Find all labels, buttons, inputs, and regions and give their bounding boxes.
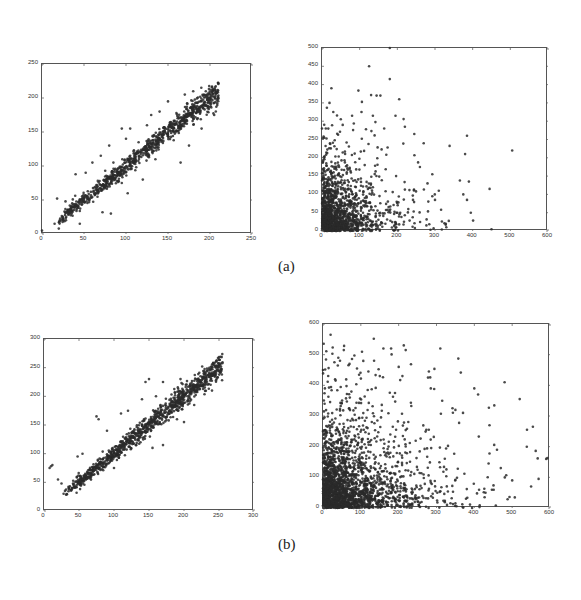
y-tick-label: 100 [23,161,38,167]
x-tick-label: 50 [72,512,84,518]
y-tick-label: 0 [304,503,319,509]
y-tick-label: 250 [23,59,38,65]
y-tick-label: 50 [23,195,38,201]
y-tick-label: 500 [303,43,318,49]
y-tick-label: 200 [25,391,40,397]
y-tick-label: 200 [303,153,318,159]
y-tick-label: 200 [304,442,319,448]
y-tick-label: 0 [303,226,318,232]
y-tick-label: 0 [25,506,40,512]
y-tick-label: 150 [303,171,318,177]
scatter-plot-a-right [321,47,547,230]
caption-b: (b) [278,536,296,553]
caption-a: (a) [278,258,295,275]
y-tick-label: 0 [23,229,38,235]
y-tick-label: 350 [303,98,318,104]
y-tick-label: 400 [303,80,318,86]
scatter-points [322,48,548,231]
x-tick-label: 0 [37,512,49,518]
x-tick-label: 600 [543,509,555,515]
scatter-points [42,64,252,234]
x-tick-label: 200 [390,232,402,238]
y-tick-label: 100 [303,189,318,195]
y-tick-label: 600 [304,319,319,325]
x-tick-label: 200 [392,509,404,515]
y-tick-label: 300 [303,116,318,122]
x-tick-label: 0 [315,232,327,238]
x-tick-label: 0 [316,509,328,515]
scatter-plot-b-right [322,323,549,507]
y-tick-label: 100 [304,472,319,478]
y-tick-label: 150 [23,127,38,133]
x-tick-label: 300 [428,232,440,238]
x-tick-label: 250 [245,235,257,241]
x-tick-label: 500 [505,509,517,515]
x-tick-label: 400 [467,509,479,515]
x-tick-label: 500 [503,232,515,238]
y-tick-label: 300 [304,411,319,417]
x-tick-label: 150 [142,512,154,518]
x-tick-label: 0 [35,235,47,241]
x-tick-label: 100 [119,235,131,241]
x-tick-label: 100 [107,512,119,518]
x-tick-label: 250 [212,512,224,518]
x-tick-label: 400 [466,232,478,238]
x-tick-label: 200 [203,235,215,241]
y-tick-label: 400 [304,380,319,386]
x-tick-label: 50 [77,235,89,241]
scatter-points [323,324,550,508]
scatter-plot-b-left [43,338,253,510]
y-tick-label: 200 [23,93,38,99]
x-tick-label: 600 [541,232,553,238]
y-tick-label: 500 [304,350,319,356]
y-tick-label: 250 [303,135,318,141]
y-tick-label: 50 [303,208,318,214]
y-tick-label: 150 [25,420,40,426]
y-tick-label: 450 [303,61,318,67]
y-tick-label: 100 [25,449,40,455]
x-tick-label: 150 [161,235,173,241]
x-tick-label: 300 [430,509,442,515]
x-tick-label: 300 [247,512,259,518]
x-tick-label: 100 [354,509,366,515]
y-tick-label: 250 [25,363,40,369]
x-tick-label: 100 [353,232,365,238]
scatter-plot-a-left [41,63,251,233]
scatter-points [44,339,254,511]
y-tick-label: 50 [25,477,40,483]
y-tick-label: 300 [25,334,40,340]
x-tick-label: 200 [177,512,189,518]
